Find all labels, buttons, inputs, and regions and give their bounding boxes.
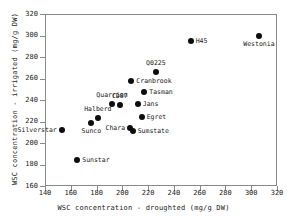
y-tick-mark bbox=[40, 100, 45, 101]
data-point-label: Jans bbox=[143, 101, 159, 108]
x-tick-label: 140 bbox=[33, 190, 57, 197]
y-tick-mark bbox=[40, 165, 45, 166]
y-tick-label: 240 bbox=[0, 97, 38, 104]
x-tick-label: 220 bbox=[136, 190, 160, 197]
y-tick-label: 180 bbox=[0, 161, 38, 168]
data-point bbox=[256, 33, 262, 39]
x-tick-label: 180 bbox=[85, 190, 109, 197]
x-tick-label: 160 bbox=[59, 190, 83, 197]
x-tick-label: 320 bbox=[265, 190, 287, 197]
y-tick-mark bbox=[40, 36, 45, 37]
y-tick-label: 160 bbox=[0, 183, 38, 190]
data-point bbox=[139, 114, 145, 120]
x-tick-label: 240 bbox=[162, 190, 186, 197]
data-point-label: Sunco bbox=[82, 128, 102, 135]
data-point-label: Tasman bbox=[149, 89, 172, 96]
y-tick-label: 280 bbox=[0, 54, 38, 61]
y-tick-label: 320 bbox=[0, 11, 38, 18]
y-axis-title: WSC concentration - irrigated (mg/g DW) bbox=[11, 9, 19, 189]
data-point bbox=[153, 69, 159, 75]
x-tick-label: 200 bbox=[110, 190, 134, 197]
y-tick-label: 260 bbox=[0, 75, 38, 82]
data-point-label: Q0225 bbox=[146, 60, 166, 67]
y-tick-mark bbox=[40, 79, 45, 80]
data-point-label: H45 bbox=[196, 37, 208, 44]
data-point-label: Cranbrook bbox=[136, 77, 171, 84]
y-tick-mark bbox=[40, 143, 45, 144]
y-tick-label: 300 bbox=[0, 32, 38, 39]
data-point-label: Egret bbox=[147, 114, 167, 121]
scatter-chart: 160180200220240260280300320 140160180200… bbox=[0, 0, 287, 220]
data-point-label: Sumstate bbox=[138, 128, 169, 135]
y-tick-mark bbox=[40, 122, 45, 123]
data-point bbox=[59, 127, 65, 133]
data-point bbox=[128, 78, 134, 84]
data-point bbox=[130, 128, 136, 134]
data-point-label: CD87 bbox=[112, 93, 128, 100]
x-axis-title: WSC concentration - droughted (mg/g DW) bbox=[0, 204, 287, 212]
data-point-label: Halberd bbox=[84, 106, 111, 113]
data-point-label: Westonia bbox=[243, 41, 274, 48]
x-tick-label: 280 bbox=[213, 190, 237, 197]
x-tick-label: 300 bbox=[239, 190, 263, 197]
y-tick-label: 220 bbox=[0, 118, 38, 125]
y-tick-mark bbox=[40, 57, 45, 58]
y-tick-mark bbox=[40, 14, 45, 15]
data-point-label: Silverstar bbox=[18, 127, 57, 134]
data-point bbox=[188, 38, 194, 44]
data-point-label: Chara bbox=[105, 124, 125, 131]
x-tick-label: 260 bbox=[188, 190, 212, 197]
y-tick-label: 200 bbox=[0, 140, 38, 147]
data-point bbox=[88, 120, 94, 126]
data-point-label: Sunstar bbox=[82, 157, 109, 164]
